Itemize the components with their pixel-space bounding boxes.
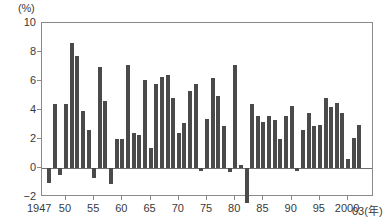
x-tick-label: 55: [87, 202, 99, 214]
bar: [301, 130, 305, 168]
x-tick-label: 95: [313, 202, 325, 214]
x-tick-mark: [150, 196, 151, 200]
bar: [126, 65, 130, 168]
bar: [239, 165, 243, 168]
bar: [188, 91, 192, 168]
bar: [267, 116, 271, 168]
bar: [87, 130, 91, 168]
bar: [329, 107, 333, 168]
x-tick-mark: [121, 196, 122, 200]
chart-container: (%) 1086420−2 19475055606570758085909520…: [0, 0, 390, 222]
bar: [205, 119, 209, 168]
bar: [335, 103, 339, 168]
bar: [149, 148, 153, 168]
bar: [58, 168, 62, 175]
x-tick-mark: [93, 196, 94, 200]
y-tick-label: 2: [30, 132, 36, 144]
x-tick-mark: [319, 196, 320, 200]
y-tick-label: 6: [30, 74, 36, 86]
x-tick-label: 80: [228, 202, 240, 214]
bar: [290, 106, 294, 168]
bar: [284, 116, 288, 168]
y-tick-label: 4: [30, 103, 36, 115]
bar: [171, 98, 175, 168]
bar: [81, 111, 85, 168]
bar: [53, 104, 57, 168]
x-tick-label: 75: [200, 202, 212, 214]
bar: [250, 104, 254, 168]
x-tick-mark: [262, 196, 263, 200]
bar: [222, 126, 226, 168]
bar: [199, 168, 203, 171]
bar: [352, 138, 356, 168]
bar: [177, 133, 181, 168]
bar: [47, 168, 51, 183]
bar: [312, 126, 316, 168]
y-tick-label: 10: [24, 16, 36, 28]
bar: [132, 133, 136, 168]
bar: [154, 84, 158, 168]
bar: [143, 80, 147, 168]
bar: [160, 77, 164, 168]
bar: [115, 139, 119, 168]
x-tick-label: 50: [59, 202, 71, 214]
x-tick-mark: [206, 196, 207, 200]
bar: [70, 43, 74, 168]
x-tick-label: 85: [256, 202, 268, 214]
bar: [273, 120, 277, 168]
bar: [194, 84, 198, 168]
x-tick-label: 70: [172, 202, 184, 214]
bar: [340, 113, 344, 168]
bar: [318, 125, 322, 169]
bar: [307, 113, 311, 168]
bar: [137, 135, 141, 168]
bar: [295, 168, 299, 171]
bar: [120, 139, 124, 168]
bar: [216, 96, 220, 169]
bar: [346, 159, 350, 168]
bar: [182, 123, 186, 168]
bar: [75, 56, 79, 168]
x-tick-label: 1947: [27, 202, 51, 214]
x-tick-label: 60: [115, 202, 127, 214]
bar: [64, 104, 68, 168]
y-tick-label: 0: [30, 161, 36, 173]
x-tick-label: 90: [285, 202, 297, 214]
bar: [357, 125, 361, 169]
x-tick-mark: [347, 196, 348, 200]
bar: [103, 101, 107, 168]
bar: [228, 168, 232, 172]
y-axis: 1086420−2: [0, 0, 41, 222]
bar: [261, 122, 265, 168]
bar-series: [42, 23, 372, 195]
bar: [98, 67, 102, 169]
bar: [92, 168, 96, 178]
bar: [166, 75, 170, 168]
x-tick-mark: [178, 196, 179, 200]
x-tick-mark: [234, 196, 235, 200]
x-tick-mark: [291, 196, 292, 200]
x-tick-label: 65: [143, 202, 155, 214]
y-tick-label: 8: [30, 45, 36, 57]
x-tick-label: 03(年): [352, 202, 383, 218]
x-axis: 194750556065707580859095200003(年): [0, 196, 390, 222]
bar: [324, 98, 328, 168]
plot-area: [41, 22, 373, 196]
bar: [211, 78, 215, 168]
bar: [233, 65, 237, 168]
x-tick-mark: [65, 196, 66, 200]
bar: [256, 116, 260, 168]
bar: [109, 168, 113, 184]
bar: [278, 139, 282, 168]
